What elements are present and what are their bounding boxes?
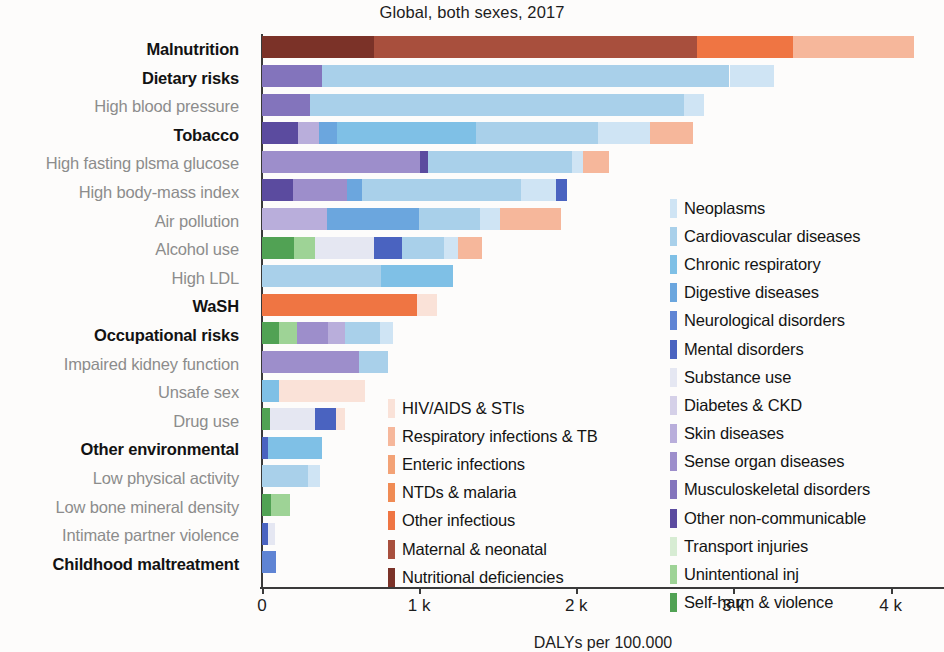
y-axis-label: Unsafe sex bbox=[0, 378, 248, 407]
legend-swatch-icon bbox=[388, 427, 395, 446]
legend-item[interactable]: HIV/AIDS & STIs bbox=[388, 394, 598, 422]
x-axis-tick-label: 1 k bbox=[408, 596, 431, 616]
y-axis-label: Other environmental bbox=[0, 435, 248, 464]
legend-item[interactable]: Diabetes & CKD bbox=[670, 391, 870, 419]
legend-label: Digestive diseases bbox=[684, 283, 819, 302]
x-axis-tick bbox=[891, 587, 893, 594]
bar-segment bbox=[380, 322, 393, 344]
legend-item[interactable]: Transport injuries bbox=[670, 532, 870, 560]
legend-item[interactable]: Enteric infections bbox=[388, 450, 598, 478]
bar-segment bbox=[402, 237, 444, 259]
legend-swatch-icon bbox=[388, 455, 395, 474]
legend-item[interactable]: Chronic respiratory bbox=[670, 250, 870, 278]
legend-swatch-icon bbox=[670, 311, 677, 330]
legend-label: Chronic respiratory bbox=[684, 255, 821, 274]
bar-segment bbox=[271, 494, 291, 516]
bar-segment bbox=[598, 122, 650, 144]
bar-segment bbox=[262, 351, 359, 373]
bar-segment bbox=[362, 179, 522, 201]
bar-segment bbox=[419, 208, 480, 230]
y-axis-labels: MalnutritionDietary risksHigh blood pres… bbox=[0, 35, 248, 578]
y-axis-label: Tobacco bbox=[0, 121, 248, 150]
legend-item[interactable]: Musculoskeletal disorders bbox=[670, 476, 870, 504]
legend-label: Transport injuries bbox=[684, 537, 808, 556]
bar-segment bbox=[298, 122, 319, 144]
bar-segment bbox=[381, 265, 453, 287]
legend-label: Enteric infections bbox=[402, 455, 525, 474]
bar-segment bbox=[420, 151, 428, 173]
bar-segment bbox=[262, 179, 293, 201]
legend-swatch-icon bbox=[670, 340, 677, 359]
y-axis-label: Low physical activity bbox=[0, 464, 248, 493]
legend-label: Unintentional inj bbox=[684, 565, 799, 584]
legend-item[interactable]: Sense organ diseases bbox=[670, 448, 870, 476]
bar-segment bbox=[322, 65, 730, 87]
legend-label: Neurological disorders bbox=[684, 311, 845, 330]
y-axis-label: High LDL bbox=[0, 264, 248, 293]
bar-segment bbox=[262, 151, 420, 173]
legend-label: Maternal & neonatal bbox=[402, 540, 547, 559]
legend-swatch-icon bbox=[670, 368, 677, 387]
legend-item[interactable]: Neurological disorders bbox=[670, 307, 870, 335]
y-axis-label: High body-mass index bbox=[0, 178, 248, 207]
bar-segment bbox=[572, 151, 584, 173]
legend-label: Diabetes & CKD bbox=[684, 396, 802, 415]
bar-segment bbox=[650, 122, 692, 144]
legend-item[interactable]: Mental disorders bbox=[670, 335, 870, 363]
bar-segment bbox=[480, 208, 500, 230]
bar-segment bbox=[417, 294, 437, 316]
legend-label: Substance use bbox=[684, 368, 791, 387]
legend-item[interactable]: Digestive diseases bbox=[670, 279, 870, 307]
legend-communicable: HIV/AIDS & STIsRespiratory infections & … bbox=[388, 394, 598, 591]
bar-segment bbox=[336, 408, 345, 430]
bar-segment bbox=[328, 322, 345, 344]
bar-segment bbox=[697, 36, 793, 58]
y-axis-label: Impaired kidney function bbox=[0, 350, 248, 379]
y-axis-label: Occupational risks bbox=[0, 321, 248, 350]
legend-item[interactable]: Self-harm & violence bbox=[670, 589, 870, 617]
legend-swatch-icon bbox=[670, 424, 677, 443]
y-axis-label: Childhood maltreatment bbox=[0, 550, 248, 579]
bar-segment bbox=[262, 36, 374, 58]
legend-item[interactable]: Substance use bbox=[670, 363, 870, 391]
y-axis-label: High blood pressure bbox=[0, 92, 248, 121]
legend-swatch-icon bbox=[670, 509, 677, 528]
legend-item[interactable]: Unintentional inj bbox=[670, 560, 870, 588]
legend-label: Other infectious bbox=[402, 511, 515, 530]
legend-item[interactable]: Nutritional deficiencies bbox=[388, 563, 598, 591]
bar-segment bbox=[345, 322, 380, 344]
bar-segment bbox=[262, 208, 327, 230]
bar-segment bbox=[270, 408, 316, 430]
legend-label: Other non-communicable bbox=[684, 509, 866, 528]
bar-segment bbox=[262, 494, 271, 516]
legend-swatch-icon bbox=[670, 565, 677, 584]
legend-item[interactable]: Neoplasms bbox=[670, 194, 870, 222]
bar-segment bbox=[327, 208, 419, 230]
x-axis-title: DALYs per 100.000 bbox=[262, 634, 944, 652]
bar-segment bbox=[262, 408, 270, 430]
y-axis-label: Intimate partner violence bbox=[0, 521, 248, 550]
bar-segment bbox=[374, 237, 402, 259]
legend-label: Neoplasms bbox=[684, 199, 765, 218]
legend-item[interactable]: Other infectious bbox=[388, 507, 598, 535]
bar-segment bbox=[684, 94, 704, 116]
bar-segment bbox=[268, 523, 275, 545]
legend-item[interactable]: Other non-communicable bbox=[670, 504, 870, 532]
bar-segment bbox=[262, 294, 417, 316]
legend-swatch-icon bbox=[670, 227, 677, 246]
legend-item[interactable]: NTDs & malaria bbox=[388, 479, 598, 507]
bar-segment bbox=[262, 551, 276, 573]
bar-segment bbox=[444, 237, 458, 259]
legend-item[interactable]: Respiratory infections & TB bbox=[388, 422, 598, 450]
bar-segment bbox=[458, 237, 482, 259]
bar-segment bbox=[374, 36, 698, 58]
y-axis-label: Malnutrition bbox=[0, 35, 248, 64]
legend-item[interactable]: Skin diseases bbox=[670, 420, 870, 448]
legend-swatch-icon bbox=[670, 283, 677, 302]
legend-swatch-icon bbox=[388, 483, 395, 502]
bar-segment bbox=[262, 65, 322, 87]
legend-item[interactable]: Maternal & neonatal bbox=[388, 535, 598, 563]
legend-label: Musculoskeletal disorders bbox=[684, 480, 870, 499]
legend-item[interactable]: Cardiovascular diseases bbox=[670, 222, 870, 250]
bar-segment bbox=[279, 380, 365, 402]
